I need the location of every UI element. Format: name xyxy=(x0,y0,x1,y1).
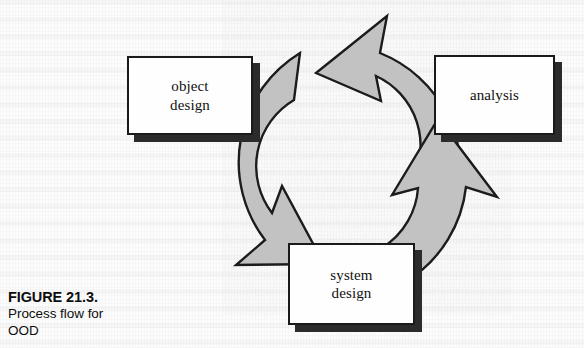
figure-page: object design analysis system design FIG… xyxy=(0,0,584,348)
figure-caption-number: FIGURE 21.3. xyxy=(8,289,98,305)
process-box-object-design-label: object design xyxy=(170,77,210,114)
process-box-system-design: system design xyxy=(288,243,415,325)
process-box-analysis-label: analysis xyxy=(470,86,519,104)
process-box-system-design-label: system design xyxy=(330,266,372,303)
process-box-object-design: object design xyxy=(127,56,253,135)
figure-caption: FIGURE 21.3. Process flow for OOD xyxy=(8,288,168,339)
process-box-analysis: analysis xyxy=(434,55,555,135)
figure-caption-text: Process flow for OOD xyxy=(8,306,168,339)
